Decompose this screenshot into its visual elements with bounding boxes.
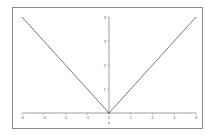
- x-tick-label: 4: [195, 115, 198, 120]
- x-tick-label: 2: [151, 115, 154, 120]
- x-tick-label: -4: [20, 115, 24, 120]
- axes: [22, 17, 196, 115]
- line-chart: -4-3-2-101234x1234: [0, 0, 217, 136]
- x-tick-label: -2: [64, 115, 68, 120]
- x-tick-label: 1: [129, 115, 132, 120]
- x-axis-label: x: [108, 120, 111, 125]
- y-tick-label: 2: [103, 63, 106, 68]
- x-tick-label: 3: [173, 115, 176, 120]
- y-tick-label: 4: [103, 15, 106, 20]
- y-tick-label: 3: [103, 39, 106, 44]
- y-tick-label: 1: [103, 87, 106, 92]
- x-tick-label: -1: [85, 115, 89, 120]
- x-tick-label: -3: [42, 115, 46, 120]
